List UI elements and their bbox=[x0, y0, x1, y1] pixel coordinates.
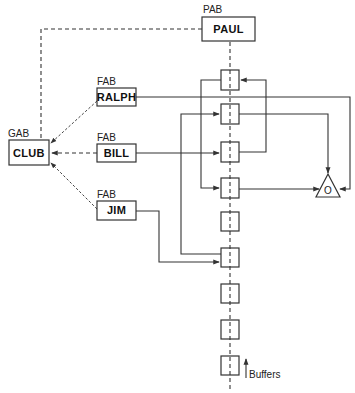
box2-to-gate-route bbox=[239, 114, 328, 173]
node-jim: FAB JIM bbox=[97, 189, 136, 220]
buffer-box bbox=[221, 248, 239, 267]
buffer-box bbox=[221, 212, 239, 231]
node-club: GAB CLUB bbox=[8, 128, 49, 165]
buffer-diagram: O PAB PAUL GAB CLUB FAB RALPH FAB BILL F… bbox=[0, 0, 355, 393]
node-bill-type: FAB bbox=[97, 132, 116, 143]
node-ralph: FAB RALPH bbox=[97, 76, 136, 106]
ralph-to-gate-route bbox=[136, 97, 350, 189]
buffers-annotation: Buffers bbox=[246, 359, 281, 380]
node-ralph-name: RALPH bbox=[97, 91, 136, 103]
node-club-name: CLUB bbox=[13, 147, 45, 159]
node-club-type: GAB bbox=[8, 128, 29, 139]
buffer-box bbox=[221, 284, 239, 303]
gate: O bbox=[316, 174, 340, 197]
buffer-box bbox=[221, 142, 239, 162]
paul-to-club-link bbox=[41, 29, 202, 140]
jim-to-club-link bbox=[51, 163, 97, 209]
node-jim-name: JIM bbox=[107, 204, 126, 216]
node-bill: FAB BILL bbox=[97, 132, 136, 162]
node-jim-type: FAB bbox=[97, 189, 116, 200]
ralph-to-club-link bbox=[51, 101, 97, 143]
buffers-label: Buffers bbox=[249, 369, 281, 380]
box1-to-box4-route bbox=[201, 80, 221, 188]
gate-symbol: O bbox=[324, 185, 332, 196]
buffer-box bbox=[221, 178, 239, 198]
node-ralph-type: FAB bbox=[97, 76, 116, 87]
box3-to-box1-route bbox=[239, 80, 266, 152]
node-paul-type: PAB bbox=[203, 4, 223, 15]
node-bill-name: BILL bbox=[104, 147, 130, 159]
node-paul: PAB PAUL bbox=[202, 4, 255, 41]
node-paul-name: PAUL bbox=[213, 23, 243, 35]
